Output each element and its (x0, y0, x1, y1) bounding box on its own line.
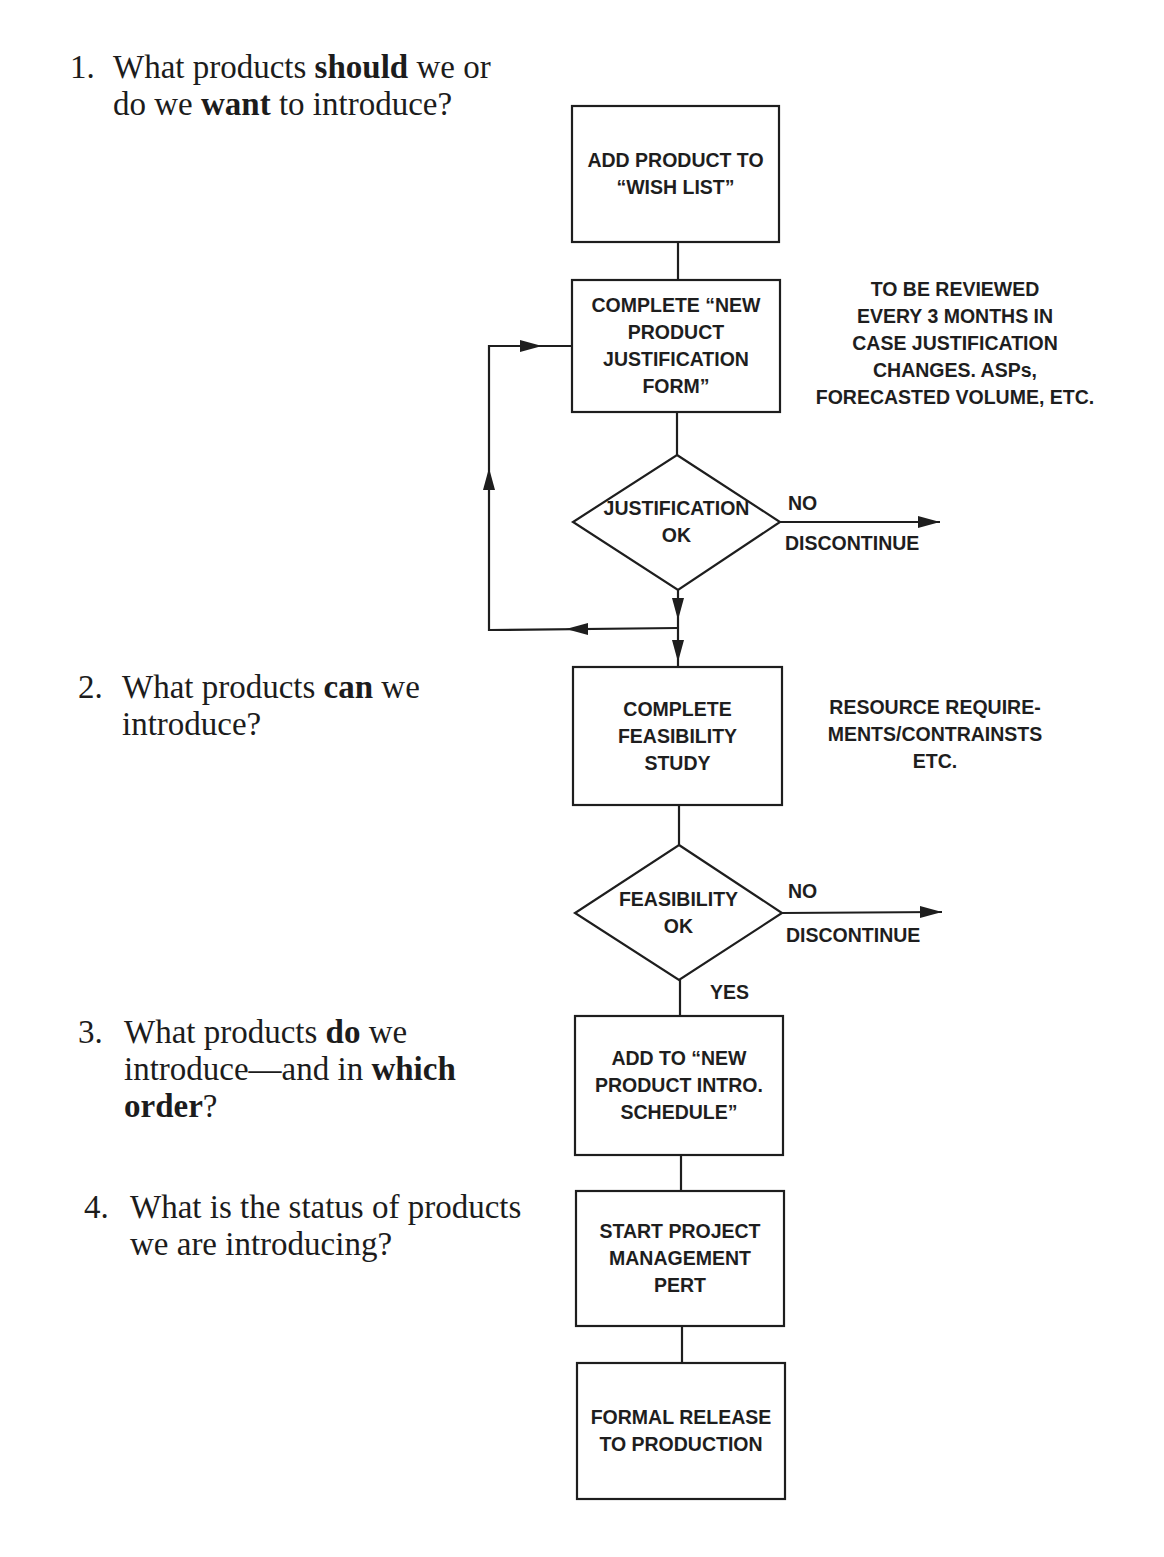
feasibility-discontinue-label: DISCONTINUE (786, 924, 920, 946)
arrow-left-icon (566, 623, 588, 635)
flowchart-page: 1. What products should we ordo we want … (0, 0, 1164, 1557)
arrow-right-icon (918, 516, 940, 528)
question-text: What is the status of productswe are int… (130, 1189, 521, 1263)
review-note: TO BE REVIEWED EVERY 3 MONTHS IN CASE JU… (800, 276, 1110, 411)
feasibility-yes-label: YES (710, 981, 749, 1003)
question-4: 4. What is the status of productswe are … (84, 1189, 564, 1269)
arrow-right-icon (520, 340, 542, 352)
justification-no-label: NO (788, 492, 817, 514)
resource-note: RESOURCE REQUIRE- MENTS/CONTRAINSTS ETC. (790, 694, 1080, 775)
question-3: 3. What products do weintroduce—and in w… (78, 1014, 518, 1134)
node-intro-schedule: ADD TO “NEW PRODUCT INTRO. SCHEDULE” (575, 1016, 783, 1155)
question-number: 3. (78, 1014, 103, 1051)
question-number: 1. (70, 49, 95, 86)
question-number: 4. (84, 1189, 109, 1226)
node-feasibility-ok: FEASIBILITY OK (575, 883, 782, 943)
node-formal-release: FORMAL RELEASE TO PRODUCTION (577, 1363, 785, 1499)
justification-discontinue-label: DISCONTINUE (785, 532, 919, 554)
arrow-up-icon (483, 468, 495, 490)
node-feasibility-study: COMPLETE FEASIBILITY STUDY (573, 667, 782, 805)
node-justification-form: COMPLETE “NEW PRODUCT JUSTIFICATION FORM… (572, 280, 780, 412)
arrow-down-icon (672, 640, 684, 662)
arrow-right-icon (920, 906, 942, 918)
question-2: 2. What products can weintroduce? (78, 669, 498, 749)
node-justification-ok: JUSTIFICATION OK (573, 492, 780, 552)
question-text: What products should we ordo we want to … (113, 49, 491, 123)
feasibility-no-label: NO (788, 880, 817, 902)
question-text: What products can weintroduce? (122, 669, 420, 743)
node-wish-list: ADD PRODUCT TO “WISH LIST” (572, 106, 779, 242)
question-1: 1. What products should we ordo we want … (70, 49, 570, 129)
question-text: What products do weintroduce—and in whic… (124, 1014, 456, 1125)
arrow-down-icon (672, 598, 684, 620)
question-number: 2. (78, 669, 103, 706)
node-project-management: START PROJECT MANAGEMENT PERT (576, 1191, 784, 1326)
